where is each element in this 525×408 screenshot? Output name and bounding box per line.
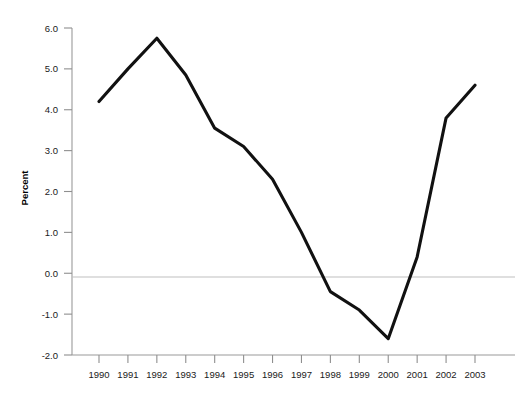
x-tick-label: 1998: [320, 369, 341, 380]
y-tick-labels: 6.05.04.03.02.01.00.0-1.0-2.0: [42, 23, 58, 361]
x-tick-label: 2003: [464, 369, 485, 380]
x-tick-label: 2002: [436, 369, 457, 380]
x-tick-label: 1993: [175, 369, 196, 380]
y-tick-label: 6.0: [45, 23, 58, 34]
x-tick-label: 1992: [146, 369, 167, 380]
x-tick-label: 1999: [349, 369, 370, 380]
x-tick-label: 1995: [233, 369, 254, 380]
x-tick-label: 1990: [88, 369, 109, 380]
line-chart: 6.05.04.03.02.01.00.0-1.0-2.0 1990199119…: [0, 0, 525, 408]
x-tick-label: 1997: [291, 369, 312, 380]
y-tick-label: 0.0: [45, 268, 58, 279]
y-tick-marks: [64, 28, 72, 355]
data-series-line: [99, 38, 475, 338]
x-tick-marks: [99, 355, 475, 363]
x-tick-label: 1991: [117, 369, 138, 380]
x-tick-labels: 1990199119921993199419951996199719981999…: [88, 369, 485, 380]
x-tick-label: 2000: [378, 369, 399, 380]
y-tick-label: 5.0: [45, 63, 58, 74]
y-axis-title: Percent: [19, 170, 30, 206]
x-tick-label: 1996: [262, 369, 283, 380]
x-tick-label: 2001: [407, 369, 428, 380]
y-tick-label: -1.0: [42, 309, 58, 320]
y-tick-label: 1.0: [45, 227, 58, 238]
y-tick-label: 2.0: [45, 186, 58, 197]
y-tick-label: 4.0: [45, 104, 58, 115]
y-tick-label: 3.0: [45, 145, 58, 156]
x-tick-label: 1994: [204, 369, 225, 380]
y-tick-label: -2.0: [42, 350, 58, 361]
